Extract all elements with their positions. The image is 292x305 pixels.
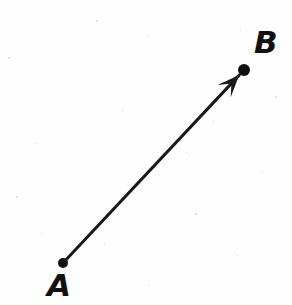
paper-speck <box>122 110 123 111</box>
paper-speck <box>148 36 149 37</box>
paper-speck <box>275 96 277 98</box>
vector-diagram-figure: A B <box>0 0 292 305</box>
paper-speck <box>41 233 42 234</box>
paper-speck <box>104 243 105 244</box>
vector-shaft-line <box>63 75 239 263</box>
paper-speck <box>213 121 214 122</box>
paper-speck <box>8 57 10 59</box>
diagram-canvas <box>0 0 292 305</box>
paper-speck <box>96 20 98 22</box>
paper-speck <box>149 285 150 286</box>
paper-speck <box>262 172 263 173</box>
paper-speck <box>240 30 241 31</box>
point-b-label: B <box>254 27 278 58</box>
paper-speck <box>36 143 37 144</box>
paper-speck <box>195 213 197 215</box>
paper-speck <box>16 196 18 198</box>
paper-speck <box>186 152 187 153</box>
point-a-label: A <box>47 270 71 301</box>
paper-speck <box>237 255 238 256</box>
point-b-dot <box>238 64 250 76</box>
